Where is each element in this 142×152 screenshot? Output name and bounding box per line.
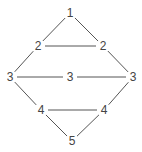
node-5: 5: [69, 134, 76, 148]
edge-n1-n2b: [75, 18, 98, 41]
edge-n2a-n3a: [15, 51, 34, 72]
edge-n3c-n4b: [109, 82, 129, 104]
node-2-right: 2: [100, 39, 107, 53]
node-3-middle: 3: [67, 70, 74, 84]
graph-diagram: 1 2 2 3 3 3 4 4 5: [0, 0, 142, 152]
edge-n1-n2a: [43, 18, 65, 41]
edge-n4a-n5: [46, 115, 67, 136]
node-2-left: 2: [35, 39, 42, 53]
node-4-left: 4: [38, 103, 45, 117]
node-4-right: 4: [101, 103, 108, 117]
edge-n4b-n5: [77, 115, 99, 136]
edge-n2b-n3c: [108, 51, 128, 72]
node-3-left: 3: [7, 70, 14, 84]
node-3-right: 3: [130, 70, 137, 84]
edge-n3a-n4a: [15, 82, 36, 105]
node-1: 1: [67, 6, 74, 20]
